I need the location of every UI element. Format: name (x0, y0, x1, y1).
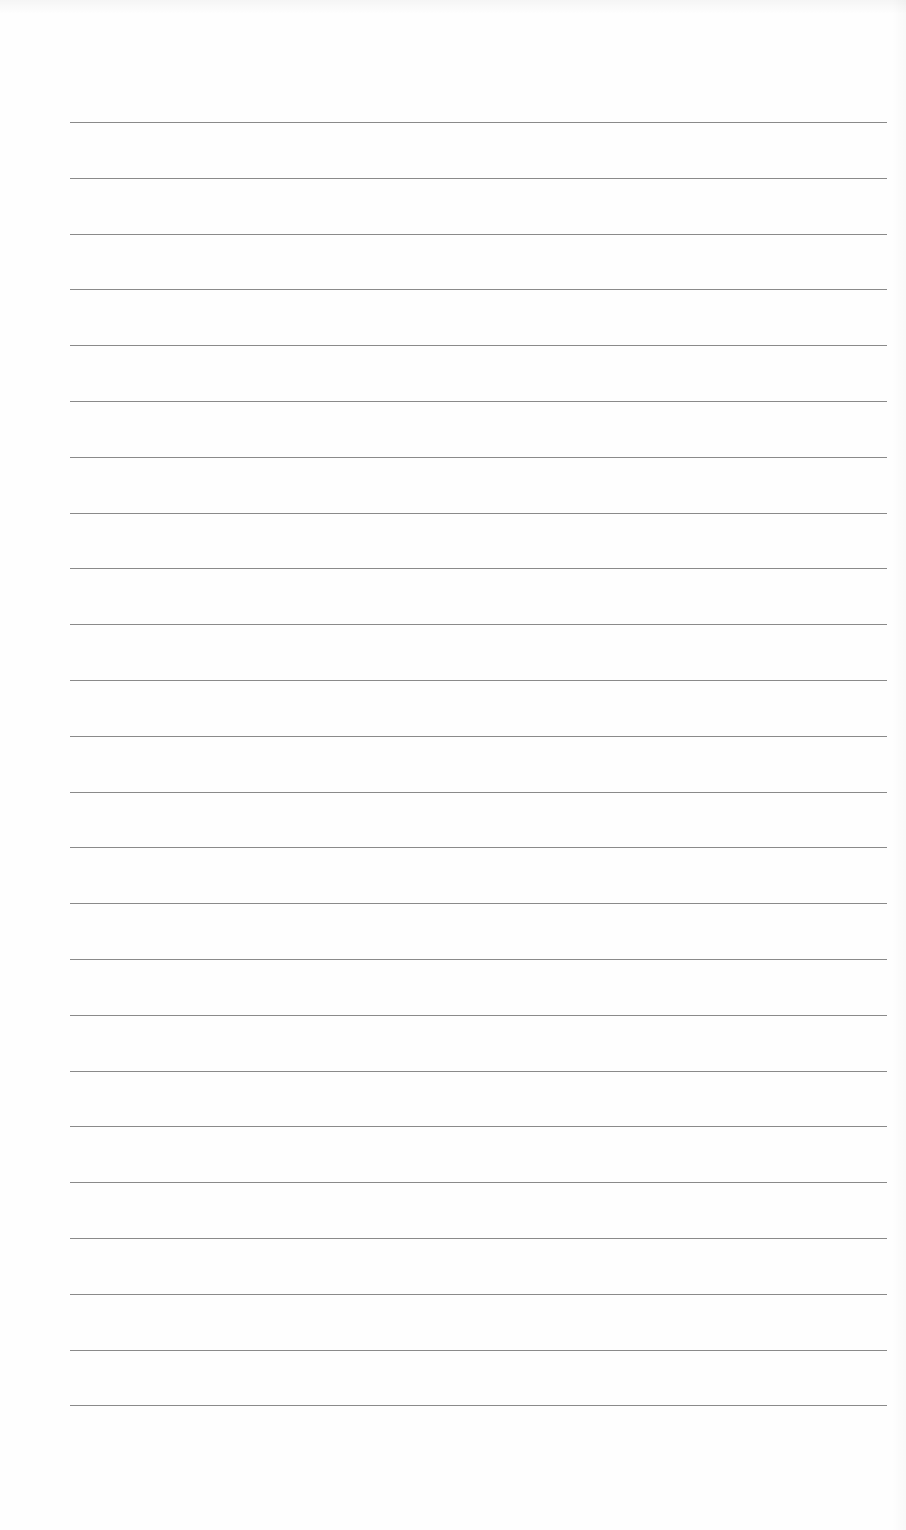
ruled-line (70, 680, 887, 681)
ruled-line (70, 513, 887, 514)
ruled-line (70, 345, 887, 346)
ruled-line (70, 1182, 887, 1183)
ruled-line (70, 792, 887, 793)
ruled-line (70, 289, 887, 290)
ruled-line (70, 1015, 887, 1016)
ruled-line (70, 1350, 887, 1351)
ruled-line (70, 401, 887, 402)
ruled-line (70, 568, 887, 569)
ruled-line (70, 959, 887, 960)
ruled-line (70, 1405, 887, 1406)
page-top-show-through (0, 0, 906, 14)
ruled-line (70, 1126, 887, 1127)
lined-paper-page (0, 0, 906, 1530)
ruled-line (70, 178, 887, 179)
ruled-line (70, 624, 887, 625)
ruled-line (70, 234, 887, 235)
page-right-edge-shade (892, 0, 906, 1530)
ruled-line (70, 1071, 887, 1072)
ruled-line (70, 1238, 887, 1239)
ruled-line (70, 847, 887, 848)
ruled-line (70, 457, 887, 458)
ruled-line (70, 122, 887, 123)
ruled-line (70, 903, 887, 904)
ruled-line (70, 736, 887, 737)
ruled-line (70, 1294, 887, 1295)
